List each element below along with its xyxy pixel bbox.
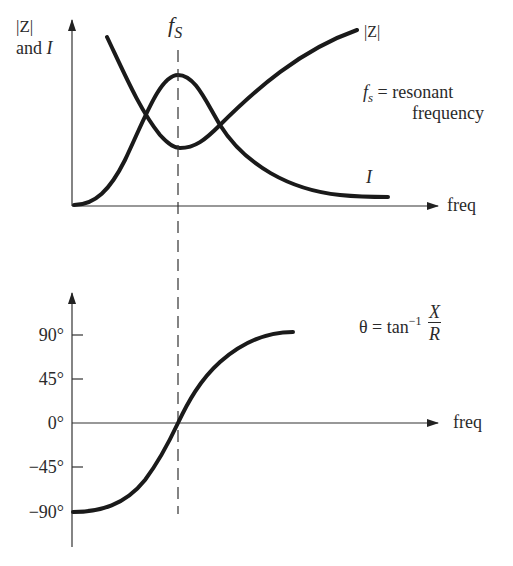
y-tick-label-neg90: −90° — [6, 503, 64, 521]
y-tick-label-0: 0° — [6, 414, 64, 432]
current-curve — [74, 75, 388, 205]
bottom-x-axis-label: freq — [453, 413, 482, 431]
y-label-var: I — [47, 38, 53, 58]
top-x-axis-label: freq — [447, 196, 476, 214]
top-y-axis-label: |Z| and I — [16, 18, 53, 57]
impedance-curve-label: |Z| — [364, 24, 380, 40]
y-label-line1: |Z| — [16, 18, 53, 35]
y-tick-label-neg45: −45° — [6, 458, 64, 476]
y-tick-label-90: 90° — [6, 326, 64, 344]
resonant-frequency-annotation: fs = resonant frequency — [363, 83, 484, 122]
resonant-freq-marker-label: fS — [168, 14, 182, 36]
y-tick-label-45: 45° — [6, 370, 64, 388]
phase-curve — [73, 332, 293, 512]
impedance-curve — [107, 30, 357, 148]
y-label-and: and — [16, 38, 47, 58]
phase-formula: θ = tan−1 X R — [359, 303, 441, 343]
current-curve-label: I — [366, 168, 372, 186]
